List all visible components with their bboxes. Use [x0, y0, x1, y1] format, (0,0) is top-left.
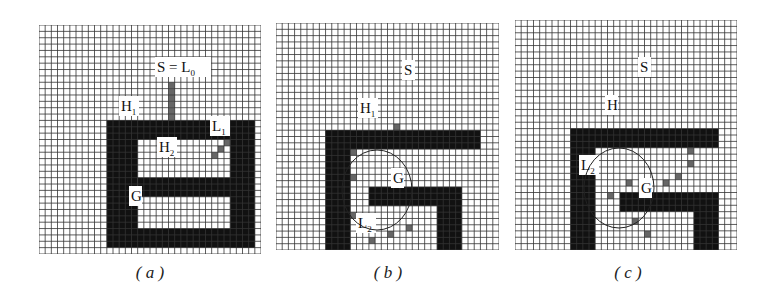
grid-svg: SH1GL2: [276, 23, 499, 250]
grid-svg: S = L0H1L1H2G: [39, 25, 261, 254]
path-cell: [169, 108, 175, 114]
path-cell: [394, 124, 400, 130]
grid-svg: SHL2G: [515, 20, 737, 250]
node-label: S: [404, 62, 412, 78]
path-cell: [169, 89, 175, 95]
path-cell: [224, 140, 230, 146]
node-label: G: [641, 180, 652, 196]
path-cell: [645, 231, 651, 237]
path-cell: [169, 101, 175, 107]
caption-b: ( b ): [348, 263, 428, 283]
panel-c-grid-map: SHL2G: [515, 20, 737, 250]
path-cell: [688, 148, 694, 154]
caption-c: ( c ): [588, 263, 668, 283]
path-cell: [388, 231, 394, 237]
path-cell: [626, 180, 632, 186]
path-cell: [350, 149, 356, 155]
path-cell: [169, 114, 175, 120]
path-cell: [169, 82, 175, 88]
path-cell: [369, 237, 375, 243]
node-label: S: [640, 59, 648, 75]
caption-a: ( a ): [110, 263, 190, 283]
panel-b-grid-map: SH1GL2: [276, 23, 499, 250]
path-cell: [406, 225, 412, 231]
path-cell: [212, 152, 218, 158]
path-cell: [663, 180, 669, 186]
path-cell: [675, 173, 681, 179]
node-label: H: [607, 97, 618, 113]
path-cell: [350, 174, 356, 180]
path-cell: [169, 95, 175, 101]
path-cell: [608, 193, 614, 199]
node-label: G: [393, 170, 404, 186]
panel-a-grid-map: S = L0H1L1H2G: [39, 25, 261, 254]
node-label: G: [131, 188, 142, 204]
obstacle-block: [326, 130, 481, 149]
path-cell: [688, 161, 694, 167]
path-cell: [218, 146, 224, 152]
